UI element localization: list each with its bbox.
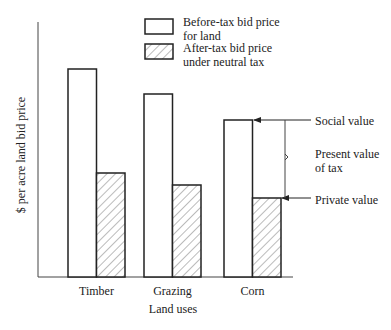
chart-canvas: Before-tax bid price for land After-tax … <box>0 0 391 330</box>
social-value-label: Social value <box>315 114 374 128</box>
legend: Before-tax bid price for land After-tax … <box>145 15 280 69</box>
legend-label-after-tax-line2: under neutral tax <box>183 55 264 69</box>
corn-annotations: Social value Present value of tax Privat… <box>254 114 379 207</box>
bar-corn-before-tax <box>224 120 253 277</box>
bars <box>68 69 281 277</box>
present-value-label-line1: Present value <box>315 147 379 161</box>
bar-grazing-before-tax <box>144 94 173 277</box>
bar-timber-after-tax <box>97 173 126 277</box>
y-axis-title: $ per acre land bid price <box>14 97 28 213</box>
category-label-corn: Corn <box>241 284 265 298</box>
category-label-timber: Timber <box>79 284 114 298</box>
bar-timber-before-tax <box>68 69 97 277</box>
bar-grazing-after-tax <box>173 185 202 277</box>
present-value-label-line2: of tax <box>315 161 343 175</box>
bar-corn-after-tax <box>253 198 282 277</box>
legend-swatch-before-tax <box>145 19 173 34</box>
legend-label-after-tax-line1: After-tax bid price <box>183 41 272 55</box>
legend-label-before-tax-line1: Before-tax bid price <box>183 15 280 29</box>
legend-swatch-after-tax <box>145 44 173 59</box>
private-value-label: Private value <box>315 193 378 207</box>
category-label-grazing: Grazing <box>153 284 192 298</box>
x-axis-title: Land uses <box>149 302 198 316</box>
category-labels: TimberGrazingCorn <box>79 284 264 298</box>
